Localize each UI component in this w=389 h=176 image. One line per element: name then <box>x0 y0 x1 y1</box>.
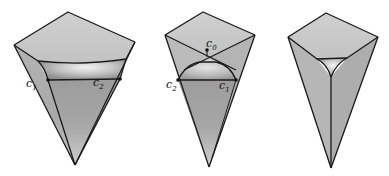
panel-3-cone-with-vertex <box>288 13 378 168</box>
panel-2-point-c2 <box>176 78 180 82</box>
panel-2-cone-with-dome: c0 c2 c1 <box>165 12 255 167</box>
panel-1-cone-with-cut: c1 c2 <box>14 12 135 165</box>
panel-2-point-c1 <box>234 78 238 82</box>
label-c2-panel-2: c2 <box>166 78 177 93</box>
figure-canvas: c1 c2 c0 c2 <box>0 0 389 176</box>
panel-1-top-face <box>14 12 135 64</box>
panel-1-point-c1 <box>46 78 50 82</box>
panel-1-point-c2 <box>118 77 122 81</box>
